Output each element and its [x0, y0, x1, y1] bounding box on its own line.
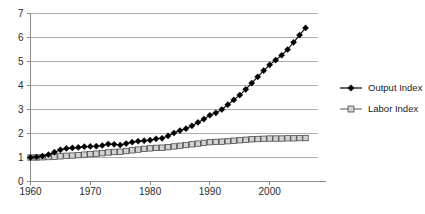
data-point-marker — [99, 142, 105, 148]
x-axis-label: 1990 — [199, 186, 222, 197]
data-point-marker — [70, 153, 75, 158]
y-axis-label: 3 — [18, 104, 24, 115]
data-point-marker — [63, 145, 69, 151]
x-axis-label: 1960 — [19, 186, 42, 197]
data-point-marker — [171, 130, 177, 136]
y-axis-label: 1 — [18, 152, 24, 163]
data-point-marker — [207, 112, 213, 118]
data-point-marker — [129, 139, 135, 145]
data-point-marker — [255, 136, 260, 141]
legend-item: Labor Index — [340, 103, 418, 114]
y-axis-label: 5 — [18, 56, 24, 67]
legend-label: Output Index — [368, 82, 423, 93]
data-point-marker — [57, 147, 63, 153]
data-point-marker — [87, 143, 93, 149]
data-point-marker — [219, 139, 224, 144]
data-point-marker — [165, 144, 170, 149]
y-axis-label: 7 — [18, 8, 24, 19]
data-point-marker — [297, 135, 302, 140]
data-point-marker — [135, 147, 140, 152]
data-point-marker — [189, 142, 194, 147]
data-point-marker — [147, 137, 153, 143]
data-point-marker — [159, 135, 165, 141]
data-point-marker — [58, 154, 63, 159]
data-point-marker — [88, 151, 93, 156]
data-point-marker — [177, 143, 182, 148]
data-point-marker — [112, 149, 117, 154]
data-point-marker — [213, 139, 218, 144]
data-point-marker — [75, 144, 81, 150]
data-point-marker — [117, 142, 123, 148]
data-point-marker — [135, 138, 141, 144]
data-point-marker — [141, 146, 146, 151]
legend-label: Labor Index — [368, 103, 418, 114]
data-point-marker — [123, 148, 128, 153]
data-point-marker — [105, 141, 111, 147]
data-point-marker — [189, 123, 195, 129]
data-point-marker — [231, 138, 236, 143]
x-axis-label: 1970 — [79, 186, 102, 197]
data-point-marker — [100, 150, 105, 155]
y-axis-label: 6 — [18, 32, 24, 43]
data-point-marker — [82, 152, 87, 157]
data-point-marker — [64, 153, 69, 158]
data-point-marker — [94, 151, 99, 156]
data-point-marker — [225, 138, 230, 143]
data-point-marker — [76, 152, 81, 157]
data-point-marker — [213, 110, 219, 116]
data-point-marker — [153, 136, 159, 142]
x-axis-label: 1980 — [139, 186, 162, 197]
data-point-marker — [273, 136, 278, 141]
data-point-marker — [237, 138, 242, 143]
line-chart: 01234567 19601970198019902000 Output Ind… — [0, 0, 425, 214]
data-point-marker — [183, 142, 188, 147]
legend-marker-diamond-icon — [348, 85, 355, 92]
x-axis-tick-labels: 19601970198019902000 — [19, 186, 281, 197]
y-axis-label: 4 — [18, 80, 24, 91]
data-point-marker — [285, 136, 290, 141]
x-axis-label: 2000 — [259, 186, 282, 197]
legend-item: Output Index — [340, 82, 423, 93]
data-point-marker — [291, 136, 296, 141]
data-point-marker — [69, 145, 75, 151]
y-axis-label: 2 — [18, 128, 24, 139]
data-point-marker — [81, 144, 87, 150]
data-point-marker — [243, 137, 248, 142]
chart-legend: Output IndexLabor Index — [340, 82, 423, 114]
data-point-marker — [201, 140, 206, 145]
data-point-marker — [183, 126, 189, 132]
data-point-marker — [207, 139, 212, 144]
data-point-marker — [177, 128, 183, 134]
data-point-marker — [117, 149, 122, 154]
data-point-marker — [111, 141, 117, 147]
data-point-marker — [153, 145, 158, 150]
data-point-marker — [249, 137, 254, 142]
data-point-marker — [106, 150, 111, 155]
data-point-marker — [195, 119, 201, 125]
y-axis-tick-labels: 01234567 — [18, 8, 24, 187]
data-point-marker — [159, 145, 164, 150]
data-point-marker — [195, 141, 200, 146]
data-point-marker — [261, 136, 266, 141]
data-point-marker — [141, 138, 147, 144]
data-point-marker — [303, 135, 308, 140]
axis-group — [27, 14, 326, 186]
data-point-marker — [279, 136, 284, 141]
data-point-marker — [171, 144, 176, 149]
data-point-marker — [129, 148, 134, 153]
chart-container: 01234567 19601970198019902000 Output Ind… — [0, 0, 425, 214]
data-point-marker — [267, 136, 272, 141]
legend-marker-square-icon — [348, 106, 354, 112]
data-point-marker — [147, 146, 152, 151]
data-point-marker — [201, 116, 207, 122]
data-point-marker — [93, 143, 99, 149]
data-point-marker — [123, 140, 129, 146]
